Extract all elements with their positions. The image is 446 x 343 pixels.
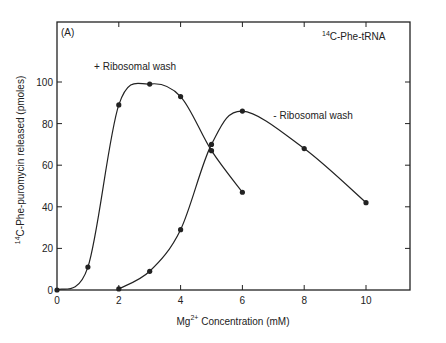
x-axis-label: Mg2+ Concentration (mM) — [176, 314, 289, 327]
x-tick-label: 2 — [116, 295, 122, 306]
y-tick-label: 0 — [47, 285, 53, 296]
data-point — [178, 227, 183, 232]
data-point — [209, 142, 214, 147]
data-point — [178, 94, 183, 99]
series-line-0 — [57, 83, 242, 290]
chart-labels: 0246810020406080100+ Ribosomal wash- Rib… — [14, 27, 386, 327]
series-label: + Ribosomal wash — [94, 61, 176, 72]
y-tick-label: 20 — [42, 243, 54, 254]
x-tick-label: 8 — [301, 295, 307, 306]
data-point — [85, 265, 90, 270]
y-tick-label: 100 — [36, 77, 53, 88]
y-tick-label: 40 — [42, 202, 54, 213]
data-point — [54, 287, 59, 292]
series-line-1 — [119, 111, 366, 289]
data-point — [363, 200, 368, 205]
series-label: - Ribosomal wash — [273, 110, 352, 121]
data-point — [302, 146, 307, 151]
chart: 0246810020406080100+ Ribosomal wash- Rib… — [0, 0, 446, 343]
data-point — [147, 269, 152, 274]
y-axis-label: 14C-Phe-puromycin released (pmoles) — [14, 76, 26, 244]
x-tick-label: 0 — [54, 295, 60, 306]
x-tick-label: 6 — [240, 295, 246, 306]
x-tick-label: 10 — [360, 295, 372, 306]
data-point — [116, 286, 121, 291]
panel-label: (A) — [61, 27, 74, 38]
data-point — [240, 190, 245, 195]
annotation-label: 14C-Phe-tRNA — [322, 30, 386, 42]
data-point — [240, 109, 245, 114]
y-tick-label: 80 — [42, 119, 54, 130]
y-tick-label: 60 — [42, 160, 54, 171]
data-point — [147, 81, 152, 86]
data-point — [116, 102, 121, 107]
x-tick-label: 4 — [178, 295, 184, 306]
